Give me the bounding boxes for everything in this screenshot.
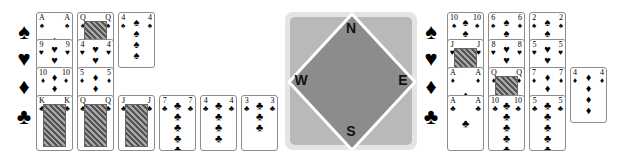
card-rank: 9♥ [65, 41, 70, 57]
card-A-of-clubs[interactable]: A♣A♣♣ [447, 95, 484, 151]
spades-suit-icon: ♠ [12, 20, 36, 44]
card-4-of-clubs[interactable]: 4♣4♣♣♣♣♣ [200, 95, 237, 151]
card-rank: 2♠ [532, 14, 536, 30]
card-rank: 4♠ [148, 14, 152, 30]
clubs-suit-icon: ♣ [12, 105, 36, 129]
clubs-pips-icon: ♣♣♣♣♣♣♣♣♣♣ [496, 100, 517, 146]
card-rank: 5♥ [558, 41, 563, 57]
card-rank: 6♠ [518, 14, 522, 30]
diamonds-pips-icon: ♦♦♦♦ [578, 72, 599, 118]
compass-east-label: E [395, 72, 411, 88]
diamonds-suit-icon: ♦ [12, 75, 36, 99]
card-rank: A♣ [475, 97, 481, 113]
card-4-of-spades[interactable]: 4♠4♠♠♠♠♠ [118, 12, 155, 68]
clubs-pips-icon: ♣♣♣♣♣♣♣ [167, 100, 188, 146]
card-rank: 7♦ [559, 69, 563, 85]
card-rank: 7♣ [188, 97, 193, 113]
card-5-of-clubs[interactable]: 5♣5♣♣♣♣♣♣ [529, 95, 566, 151]
compass-north-label: N [343, 20, 359, 36]
hearts-suit-icon: ♥ [419, 47, 443, 71]
compass-west-label: W [293, 72, 309, 88]
card-rank: 4♦ [600, 69, 604, 85]
card-3-of-clubs[interactable]: 3♣3♣♣♣♣ [241, 95, 278, 151]
clubs-pips-icon: ♣♣♣♣♣ [537, 100, 558, 146]
card-rank: 4♦ [573, 69, 577, 85]
card-rank: 8♥ [517, 41, 522, 57]
clubs-suit-icon: ♣ [419, 105, 443, 129]
card-rank: 3♣ [270, 97, 275, 113]
card-rank: 4♠ [121, 14, 125, 30]
clubs-pips-icon: ♣♣♣♣ [208, 100, 229, 146]
card-rank: 4♣ [229, 97, 234, 113]
clubs-pips-icon: ♣♣♣ [249, 100, 270, 146]
card-K-of-clubs[interactable]: K♣K♣ [36, 95, 73, 151]
card-Q-of-clubs[interactable]: Q♣Q♣ [77, 95, 114, 151]
card-rank: 5♣ [558, 97, 563, 113]
compass-south-label: S [343, 123, 359, 139]
diamonds-suit-icon: ♦ [419, 75, 443, 99]
card-rank: 6♠ [491, 14, 495, 30]
face-card-art [84, 104, 107, 147]
hearts-suit-icon: ♥ [12, 47, 36, 71]
card-rank: A♠ [64, 14, 70, 30]
card-rank: 2♠ [559, 14, 563, 30]
card-rank: 4♥ [106, 41, 111, 57]
card-rank: 5♦ [80, 69, 84, 85]
card-rank: A♦ [475, 69, 481, 85]
spades-pips-icon: ♠♠♠♠ [126, 17, 147, 63]
card-7-of-clubs[interactable]: 7♣7♣♣♣♣♣♣♣♣ [159, 95, 196, 151]
card-rank: 7♦ [532, 69, 536, 85]
face-card-art [43, 104, 66, 147]
clubs-pips-icon: ♣ [455, 100, 476, 146]
card-4-of-diamonds[interactable]: 4♦4♦♦♦♦♦ [570, 67, 607, 123]
card-J-of-clubs[interactable]: J♣J♣ [118, 95, 155, 151]
card-10-of-clubs[interactable]: 10♣10♣♣♣♣♣♣♣♣♣♣♣ [488, 95, 525, 151]
card-rank: 5♦ [107, 69, 111, 85]
spades-suit-icon: ♠ [419, 20, 443, 44]
face-card-art [125, 104, 148, 147]
